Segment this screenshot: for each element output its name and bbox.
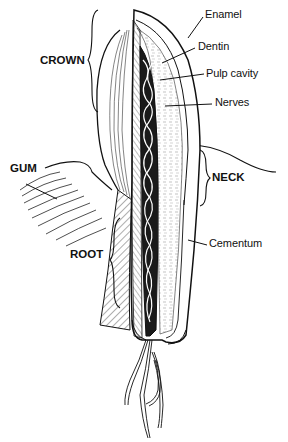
label-root: ROOT	[70, 248, 103, 260]
label-crown: CROWN	[40, 54, 85, 66]
label-cementum: Cementum	[209, 237, 262, 249]
label-dentin: Dentin	[198, 40, 229, 52]
label-pulp-cavity: Pulp cavity	[206, 67, 258, 79]
label-neck: NECK	[212, 171, 245, 183]
nerve-roots	[125, 340, 163, 438]
label-nerves: Nerves	[215, 96, 249, 108]
label-gum: GUM	[10, 162, 37, 174]
crown-left-contour	[97, 30, 120, 190]
gum-line-right	[196, 145, 276, 172]
crown-left-striations	[110, 30, 130, 198]
gum-tissue	[20, 162, 112, 246]
label-enamel: Enamel	[205, 8, 242, 20]
root-bone-left	[100, 190, 132, 330]
